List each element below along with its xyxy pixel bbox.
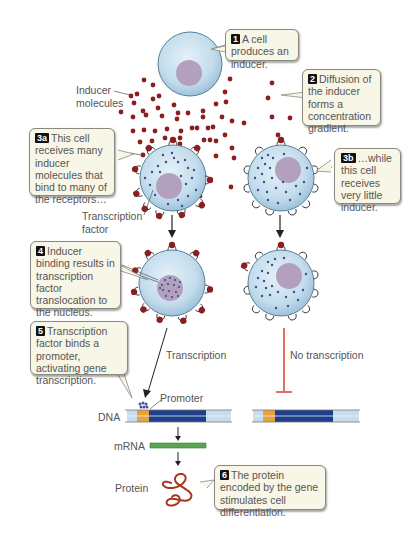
label-dna: DNA [98, 411, 120, 424]
arrow-mrna-to-protein [175, 452, 181, 466]
step-number-4: 4 [36, 246, 45, 256]
callout-3a-text: This cell receives many inducer molecule… [35, 132, 107, 205]
callout-5: 5Transcription factor binds a promoter, … [30, 321, 128, 375]
dna-inactive [252, 410, 360, 422]
inducer-producing-cell [158, 32, 222, 96]
label-protein: Protein [115, 482, 148, 495]
label-promoter: Promoter [160, 392, 203, 405]
label-transcription-factor: Transcription factor [82, 210, 144, 235]
arrow-dna-to-mrna [175, 427, 181, 441]
cell-low-inducer [243, 137, 318, 216]
transcription-arrow [143, 328, 167, 398]
arrow-down-left [168, 215, 176, 238]
callout-3a: 3aThis cell receives many inducer molecu… [29, 128, 115, 196]
cell-high-inducer [131, 137, 213, 220]
callout-3b: 3b…while this cell receives very little … [334, 148, 401, 204]
cell-translocation [130, 242, 213, 325]
step-number-2: 2 [308, 74, 317, 84]
step-number-3a: 3a [35, 133, 49, 143]
mrna-strand [150, 443, 206, 448]
step-number-3b: 3b [341, 153, 356, 163]
label-no-transcription: No transcription [290, 349, 364, 362]
callout-2: 2Diffusion of the inducer forms a concen… [302, 69, 381, 126]
label-mrna: mRNA [114, 440, 145, 453]
callout-4-text: Inducer binding results in transcription… [36, 245, 115, 318]
step-number-6: 6 [220, 470, 229, 480]
arrow-down-right [276, 215, 284, 238]
bound-transcription-factor [139, 402, 149, 409]
callout-6: 6The protein encoded by the gene stimula… [214, 465, 326, 510]
callout-4: 4Inducer binding results in transcriptio… [30, 241, 121, 309]
callout-1: 1A cell produces an inducer. [225, 29, 299, 61]
protein-icon [163, 474, 192, 506]
label-transcription: Transcription [166, 349, 226, 362]
callout-2-text: Diffusion of the inducer forms a concent… [308, 73, 371, 134]
cell-no-translocation [240, 242, 319, 321]
step-number-1: 1 [231, 34, 240, 44]
label-inducer-molecules: Inducer molecules [76, 84, 126, 109]
step-number-5: 5 [36, 326, 45, 336]
